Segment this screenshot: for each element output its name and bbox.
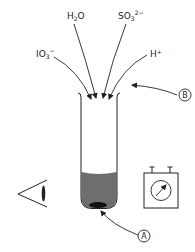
label-h2o: H2O: [67, 11, 85, 22]
arrow-b: [132, 85, 177, 95]
svg-text:A: A: [141, 232, 147, 241]
label-so3: SO32−: [118, 9, 143, 22]
callout-b: B: [179, 89, 191, 101]
eye-icon: [18, 180, 47, 207]
callout-a: A: [138, 230, 150, 242]
test-tube: [78, 93, 120, 209]
arrow-io3: [54, 57, 91, 99]
label-io3: IO3−: [36, 47, 55, 60]
meter-icon: [144, 167, 178, 208]
precipitate: [89, 202, 107, 208]
arrow-a: [101, 211, 138, 235]
reaction-diagram: H2O SO32− IO3− H+ B A: [0, 0, 195, 252]
label-hplus: H+: [150, 48, 162, 59]
svg-text:B: B: [182, 91, 188, 100]
arrow-hplus: [109, 55, 147, 99]
